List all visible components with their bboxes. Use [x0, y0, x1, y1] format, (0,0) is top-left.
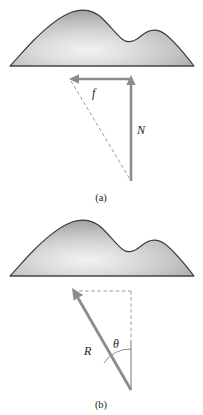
friction-figure: f N (a) — [0, 0, 203, 415]
panel-b: R θ (b) — [10, 220, 194, 411]
panel-a: f N (a) — [10, 10, 194, 204]
rough-surface-mound-b — [10, 220, 194, 276]
friction-force-arrowhead — [69, 74, 79, 84]
resultant-force-label: R — [83, 344, 92, 358]
component-guide-box — [73, 291, 131, 340]
normal-force-vector — [126, 75, 135, 181]
friction-angle-label: θ — [113, 337, 119, 351]
panel-a-caption: (a) — [95, 192, 107, 204]
normal-force-label: N — [136, 123, 146, 137]
rough-surface-mound-a — [10, 10, 194, 66]
friction-force-label: f — [92, 86, 97, 100]
mound-outline-a — [10, 10, 194, 66]
mound-outline-b — [10, 220, 194, 276]
resultant-construction-line-a — [71, 81, 131, 181]
figure-canvas: f N (a) — [0, 0, 203, 415]
panel-b-caption: (b) — [95, 399, 108, 411]
resultant-force-vector — [72, 288, 131, 390]
friction-force-vector — [69, 74, 131, 84]
